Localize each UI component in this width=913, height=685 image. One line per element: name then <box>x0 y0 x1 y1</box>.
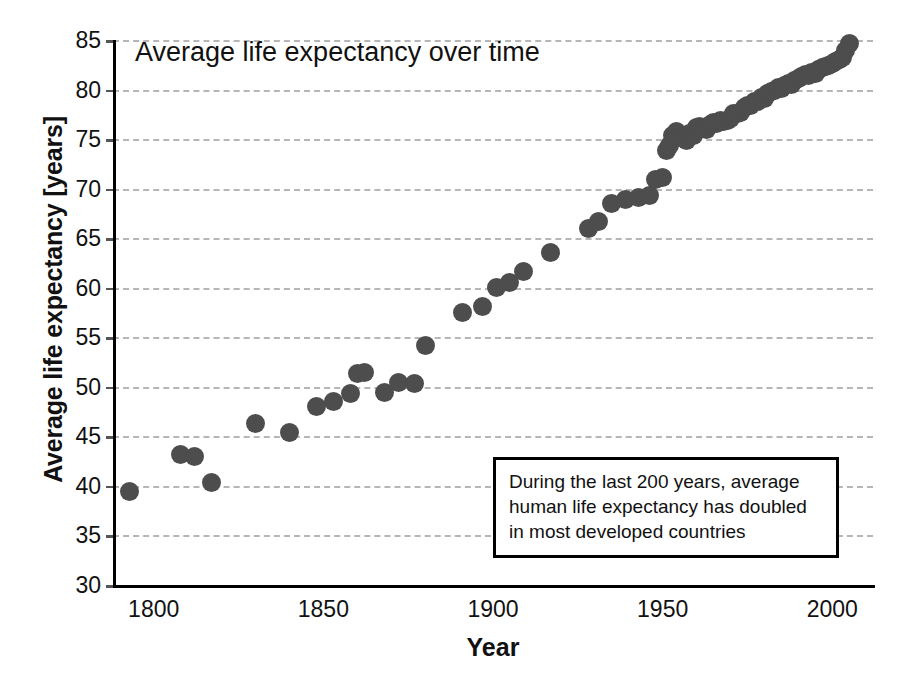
x-tick-label-1900: 1900 <box>467 596 518 623</box>
y-tick-mark-65 <box>106 238 113 241</box>
y-tick-label-60: 60 <box>75 274 101 301</box>
data-point <box>355 363 374 382</box>
y-tick-label-65: 65 <box>75 225 101 252</box>
x-tick-label-1850: 1850 <box>298 596 349 623</box>
data-point <box>453 303 472 322</box>
y-axis-title: Average life expectancy [years] <box>39 65 68 535</box>
gridline-y-70 <box>113 189 873 191</box>
gridline-y-65 <box>113 238 873 240</box>
y-tick-label-75: 75 <box>75 126 101 153</box>
y-tick-label-55: 55 <box>75 324 101 351</box>
y-tick-mark-60 <box>106 288 113 291</box>
y-tick-mark-40 <box>106 486 113 489</box>
x-axis-title: Year <box>113 633 873 662</box>
annotation-line-2: human life expectancy has doubled <box>509 494 824 519</box>
x-axis-line <box>113 585 875 588</box>
data-point <box>280 423 299 442</box>
x-tick-label-1800: 1800 <box>128 596 179 623</box>
annotation-line-3: in most developed countries <box>509 519 824 544</box>
x-tick-label-1950: 1950 <box>637 596 688 623</box>
y-tick-label-35: 35 <box>75 522 101 549</box>
y-tick-label-45: 45 <box>75 423 101 450</box>
gridline-y-75 <box>113 139 873 141</box>
y-tick-mark-35 <box>106 535 113 538</box>
y-tick-label-30: 30 <box>75 572 101 599</box>
x-tick-label-2000: 2000 <box>807 596 858 623</box>
gridline-y-55 <box>113 337 873 339</box>
y-axis-line <box>113 40 116 588</box>
y-tick-mark-50 <box>106 387 113 390</box>
y-tick-mark-85 <box>106 40 113 43</box>
data-point <box>246 414 265 433</box>
y-tick-label-40: 40 <box>75 472 101 499</box>
y-tick-mark-70 <box>106 189 113 192</box>
annotation-box: During the last 200 years, average human… <box>493 457 839 558</box>
chart-figure: Average life expectancy [years] Year 303… <box>0 0 913 685</box>
y-tick-mark-45 <box>106 436 113 439</box>
data-point <box>416 336 435 355</box>
gridline-y-45 <box>113 436 873 438</box>
y-tick-mark-30 <box>106 585 113 588</box>
data-point <box>541 243 560 262</box>
y-tick-label-80: 80 <box>75 76 101 103</box>
y-tick-mark-80 <box>106 90 113 93</box>
y-tick-mark-55 <box>106 337 113 340</box>
data-point <box>185 447 204 466</box>
gridline-y-50 <box>113 387 873 389</box>
y-tick-label-50: 50 <box>75 373 101 400</box>
plot-area: 303540455055606570758085 180018501900195… <box>113 40 873 585</box>
data-point <box>589 212 608 231</box>
y-tick-label-85: 85 <box>75 27 101 54</box>
chart-title: Average life expectancy over time <box>135 37 540 68</box>
annotation-line-1: During the last 200 years, average <box>509 469 824 494</box>
y-tick-label-70: 70 <box>75 175 101 202</box>
y-tick-mark-75 <box>106 139 113 142</box>
